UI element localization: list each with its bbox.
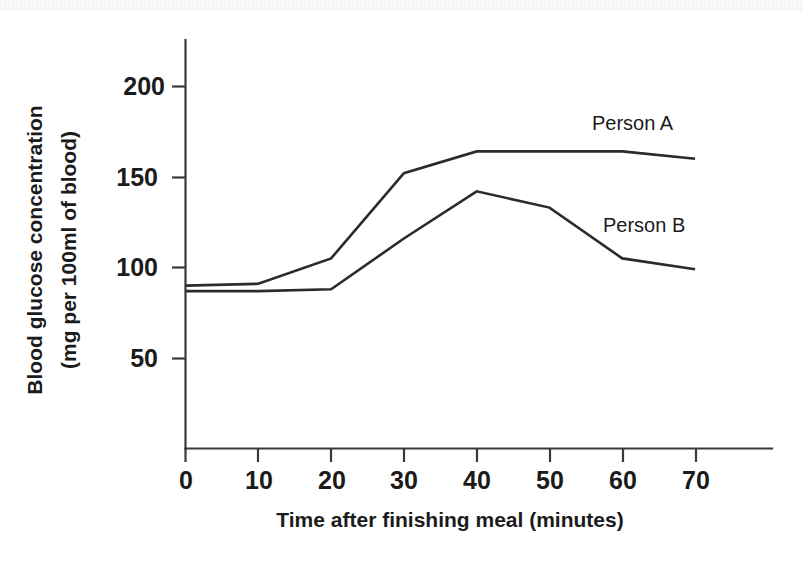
x-tick-label-70: 70 (682, 466, 710, 494)
x-tick-label-0: 0 (179, 466, 193, 494)
chart-figure: 200 150 100 50 0 10 20 30 40 50 60 70 (0, 0, 802, 574)
y-axis-title-line1: Blood glucose concentration (23, 105, 46, 394)
line-chart-plot: 200 150 100 50 0 10 20 30 40 50 60 70 (0, 0, 802, 574)
x-tick-labels: 0 10 20 30 40 50 60 70 (179, 466, 710, 494)
x-tick-label-20: 20 (318, 466, 346, 494)
x-tick-label-60: 60 (609, 466, 637, 494)
x-tick-label-40: 40 (463, 466, 491, 494)
y-axis-title-line2: (mg per 100ml of blood) (57, 131, 80, 369)
y-tick-marks (172, 87, 186, 359)
x-tick-marks (186, 449, 697, 462)
y-tick-label-100: 100 (116, 253, 158, 281)
y-tick-label-200: 200 (123, 72, 165, 100)
series-label-person-b: Person B (603, 214, 685, 236)
y-tick-labels: 200 150 100 50 (116, 72, 165, 372)
y-tick-label-150: 150 (116, 163, 158, 191)
x-tick-label-30: 30 (390, 466, 418, 494)
series-label-person-a: Person A (592, 112, 674, 134)
x-tick-label-10: 10 (245, 466, 273, 494)
series-line-person-b (186, 191, 696, 291)
x-axis-title: Time after finishing meal (minutes) (276, 508, 623, 531)
y-tick-label-50: 50 (130, 344, 158, 372)
x-tick-label-50: 50 (536, 466, 564, 494)
